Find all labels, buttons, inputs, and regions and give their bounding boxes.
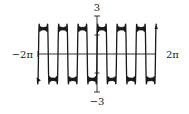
y-max-label: 3 — [94, 2, 100, 13]
x-max-label: 2π — [166, 49, 179, 60]
curve-arrow-left-icon — [37, 78, 41, 82]
x-min-label: −2π — [12, 49, 34, 60]
y-min-label: −3 — [90, 96, 105, 107]
square-wave-plot: 3 −3 −2π 2π — [0, 0, 189, 114]
curve-arrow-right-icon — [154, 25, 158, 29]
